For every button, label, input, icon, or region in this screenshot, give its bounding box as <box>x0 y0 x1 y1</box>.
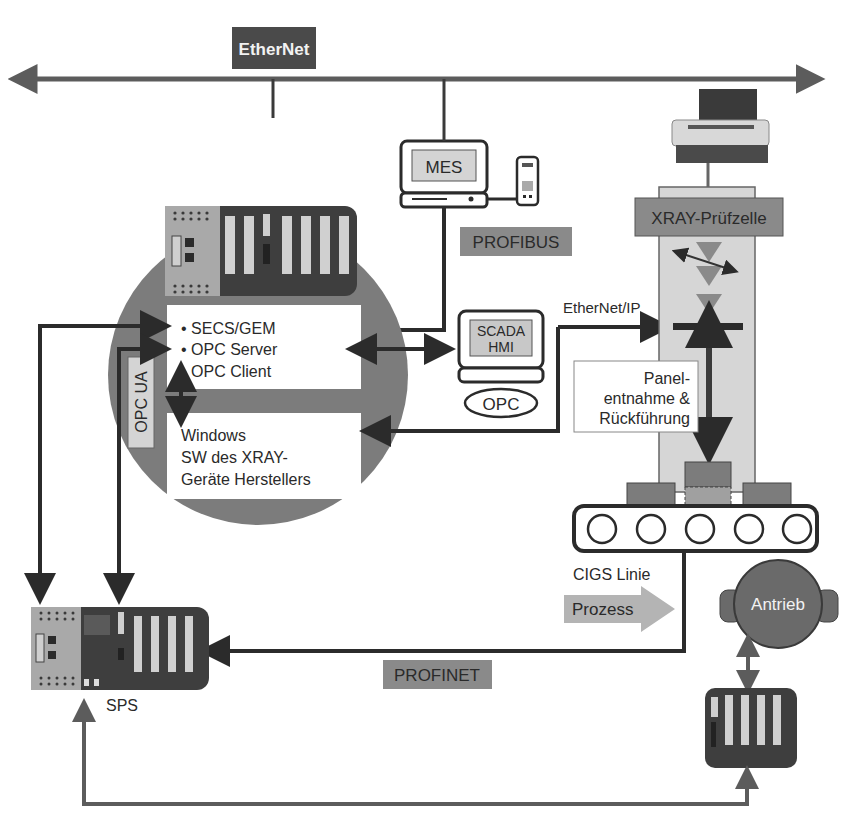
xray-cell-label: XRAY-Prüfzelle <box>651 209 766 228</box>
windows-software-box: Windows SW des XRAY- Geräte Herstellers <box>167 413 361 499</box>
drive-motor-icon: Antrieb <box>720 560 838 648</box>
plc-rack-top-icon <box>165 206 357 296</box>
mes-label: MES <box>426 158 463 177</box>
ethernet-ip-label: EtherNet/IP <box>563 299 641 316</box>
panels <box>627 462 791 505</box>
software-item-secs-gem: • SECS/GEM <box>181 320 276 337</box>
software-item-opc-client: • OPC Client <box>181 363 272 380</box>
xray-cell-label-box: XRAY-Prüfzelle <box>635 198 783 236</box>
profibus-label-box: PROFIBUS <box>460 227 572 256</box>
plc-rack-small-icon <box>705 688 797 768</box>
ethernet-label: EtherNet <box>239 40 310 59</box>
panel-line-1: Panel- <box>644 370 690 387</box>
xray-device-icon <box>672 89 769 187</box>
windows-line-2: SW des XRAY- <box>181 449 288 466</box>
conveyor-icon <box>574 506 817 551</box>
panel-handling-box: Panel- entnahme & Rückführung <box>574 361 698 432</box>
software-box: • SECS/GEM • OPC Server • OPC Client <box>167 305 361 389</box>
process-arrow: Prozess <box>564 586 675 632</box>
antrieb-label: Antrieb <box>751 595 805 614</box>
opc-ua-label-box: OPC UA <box>128 357 154 448</box>
software-item-opc-server: • OPC Server <box>181 341 278 358</box>
hmi-label: HMI <box>488 339 514 355</box>
mes-computer: MES <box>401 141 538 207</box>
profinet-label-box: PROFINET <box>383 660 492 689</box>
prozess-label: Prozess <box>572 600 633 619</box>
scada-label: SCADA <box>477 323 526 339</box>
opc-label: OPC <box>483 395 520 414</box>
windows-line-1: Windows <box>181 427 246 444</box>
ethernet-label-box: EtherNet <box>232 27 316 69</box>
diagram-canvas: EtherNet MES PROFIBUS <box>0 0 849 834</box>
cigs-line-label: CIGS Linie <box>573 566 650 583</box>
scada-hmi-computer: SCADA HMI OPC <box>459 311 543 417</box>
sps-label: SPS <box>106 697 138 714</box>
sps-plc-rack-icon <box>31 607 209 690</box>
detector-bar <box>673 323 743 330</box>
panel-line-2: entnahme & <box>604 390 691 407</box>
panel-line-3: Rückführung <box>599 410 690 427</box>
opc-ua-label: OPC UA <box>133 371 150 433</box>
profinet-label: PROFINET <box>394 666 480 685</box>
profibus-label: PROFIBUS <box>473 233 560 252</box>
windows-line-3: Geräte Herstellers <box>181 471 311 488</box>
